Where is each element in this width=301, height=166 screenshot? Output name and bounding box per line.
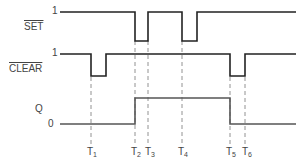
tick-t6: T6 — [242, 147, 252, 160]
time-marker-lines — [91, 41, 245, 146]
tick-t1: T1 — [87, 147, 97, 160]
q-waveform — [60, 98, 296, 124]
set-label: SET — [24, 22, 43, 32]
q-label: Q — [35, 104, 43, 114]
waveforms — [0, 0, 301, 166]
set-waveform — [60, 12, 296, 41]
timing-diagram: 1 SET 1 CLEAR Q 0 T1 T2 T3 T4 T5 T6 — [0, 0, 301, 166]
set-high-label: 1 — [52, 6, 58, 16]
q-low-label: 0 — [48, 119, 54, 129]
tick-t3: T3 — [145, 147, 155, 160]
clear-high-label: 1 — [52, 48, 58, 58]
tick-t5: T5 — [226, 147, 236, 160]
tick-t4: T4 — [178, 147, 188, 160]
clear-waveform — [60, 54, 296, 76]
clear-label: CLEAR — [9, 64, 42, 74]
tick-t2: T2 — [131, 147, 141, 160]
